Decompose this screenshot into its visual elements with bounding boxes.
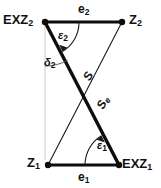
node-label-z2: Z2 bbox=[129, 13, 142, 28]
geometry-diagram: EXZ2 Z2 Z1 EXZ1 e2 e1 S Se ε2 δ2 ε1 bbox=[0, 0, 161, 188]
node-label-exz2: EXZ2 bbox=[3, 13, 33, 28]
node-label-z1-text: Z bbox=[27, 155, 35, 170]
edge-label-e2: e2 bbox=[78, 3, 89, 17]
angle-label-epsilon2: ε2 bbox=[58, 30, 68, 43]
node-dot-exz2 bbox=[42, 19, 48, 25]
edge-label-e2-text: e bbox=[78, 2, 85, 16]
edge-label-e1-text: e bbox=[78, 170, 85, 184]
edge-label-e2-sub: 2 bbox=[85, 7, 90, 17]
node-label-z1: Z1 bbox=[27, 156, 40, 171]
angle-label-delta2-sub: 2 bbox=[51, 60, 56, 70]
edge-label-e1-sub: 1 bbox=[85, 175, 90, 185]
angle-label-delta2-text: δ bbox=[44, 56, 51, 68]
node-label-exz1-text: EXZ bbox=[122, 156, 147, 171]
angle-label-epsilon1: ε1 bbox=[97, 140, 107, 153]
node-dot-z2 bbox=[119, 19, 125, 25]
edge-label-e1: e1 bbox=[78, 171, 89, 185]
node-label-z2-text: Z bbox=[129, 12, 137, 27]
diagonal-s-line bbox=[48, 22, 122, 165]
node-label-exz1-sub: 1 bbox=[147, 162, 152, 172]
node-dot-z1 bbox=[45, 162, 51, 168]
node-label-z2-sub: 2 bbox=[137, 18, 142, 28]
angle-label-epsilon1-sub: 1 bbox=[102, 143, 107, 153]
diagonal-se-line bbox=[45, 22, 119, 165]
node-label-exz2-text: EXZ bbox=[3, 12, 28, 27]
node-label-exz2-sub: 2 bbox=[28, 18, 33, 28]
node-label-z1-sub: 1 bbox=[35, 161, 40, 171]
angle-label-delta2: δ2 bbox=[44, 57, 55, 70]
node-label-exz1: EXZ1 bbox=[122, 157, 152, 172]
angle-label-epsilon2-sub: 2 bbox=[63, 33, 68, 43]
